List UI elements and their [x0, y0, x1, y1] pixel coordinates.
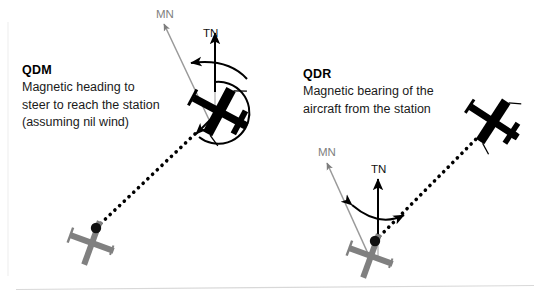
qdr-description-line-2: aircraft from the station	[303, 101, 434, 119]
magnetic-north-label-right: MN	[318, 146, 336, 158]
qdr-text-block: QDR Magnetic bearing of the aircraft fro…	[303, 66, 434, 118]
qdm-description-line-1: Magnetic heading to	[22, 79, 160, 97]
aircraft-symbol-right	[453, 81, 533, 162]
qdr-code: QDR	[303, 66, 434, 83]
qdr-description-line-1: Magnetic bearing of the	[303, 83, 434, 101]
angle-arc-arrow-left	[191, 62, 247, 79]
magnetic-north-arrow-right	[327, 163, 370, 258]
qdm-description-line-2: steer to reach the station	[22, 97, 160, 115]
diagram-canvas	[0, 0, 545, 301]
qdm-text-block: QDM Magnetic heading to steer to reach t…	[22, 62, 160, 132]
ndb-station-symbol-right	[342, 227, 401, 286]
qdm-code: QDM	[22, 62, 160, 79]
true-north-label-right: TN	[371, 163, 386, 175]
magnetic-north-arrow-left	[164, 24, 212, 126]
qdm-description-line-3: (assuming nil wind)	[22, 114, 160, 132]
ndb-station-symbol-left	[63, 214, 122, 273]
magnetic-north-label-left: MN	[156, 8, 174, 20]
bottom-divider	[16, 286, 534, 290]
dotted-bearing-line-left	[96, 116, 214, 228]
true-north-label-left: TN	[203, 27, 218, 39]
dotted-bearing-line-right	[375, 136, 479, 241]
